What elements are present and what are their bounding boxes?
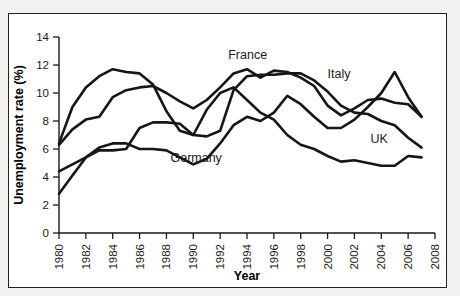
y-axis-title: Unemployment rate (%)	[12, 65, 26, 205]
x-tick-label: 1992	[214, 244, 226, 270]
series-label-italy: Italy	[328, 67, 352, 81]
series-label-uk: UK	[371, 132, 389, 146]
x-tick-label: 2008	[429, 244, 441, 270]
x-tick-label: 2000	[322, 244, 334, 270]
series-label-france: France	[228, 48, 267, 62]
x-tick-label: 1996	[268, 244, 280, 270]
x-tick-label: 1980	[53, 244, 65, 270]
y-tick-label: 0	[43, 227, 49, 239]
x-tick-label: 1982	[80, 244, 92, 270]
x-axis-title: Year	[234, 269, 261, 283]
y-tick-label: 4	[43, 171, 50, 183]
series-label-germany: Germany	[170, 151, 222, 165]
y-tick-label: 14	[36, 31, 49, 43]
chart-page: 0246810121419801982198419861988199019921…	[0, 0, 460, 296]
x-tick-label: 1994	[241, 243, 253, 269]
x-tick-label: 1984	[107, 243, 119, 269]
series-line-germany	[59, 72, 422, 194]
x-tick-label: 2002	[348, 244, 360, 270]
y-tick-label: 10	[36, 87, 49, 99]
y-tick-label: 8	[43, 115, 49, 127]
unemployment-rate-line-chart: 0246810121419801982198419861988199019921…	[9, 14, 445, 286]
x-tick-label: 2006	[402, 244, 414, 270]
x-tick-label: 1990	[187, 244, 199, 270]
data-series	[59, 69, 422, 194]
x-tick-label: 1986	[134, 244, 146, 270]
y-tick-label: 12	[36, 59, 49, 71]
figure-frame: 0246810121419801982198419861988199019921…	[8, 13, 447, 288]
x-tick-label: 1998	[295, 244, 307, 270]
x-tick-label: 2004	[375, 243, 387, 269]
y-tick-label: 6	[43, 143, 49, 155]
x-tick-label: 1988	[160, 244, 172, 270]
y-tick-label: 2	[43, 199, 49, 211]
